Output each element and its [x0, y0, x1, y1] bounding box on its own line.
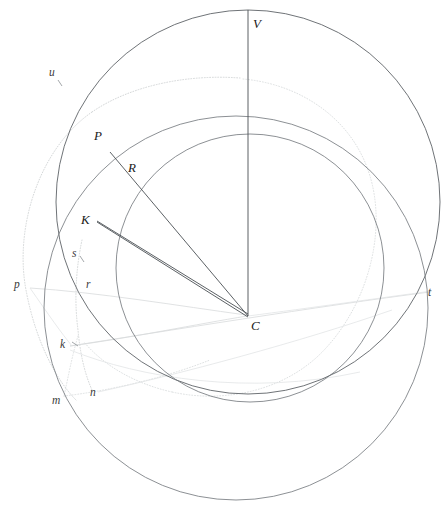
segment-P-C: [110, 152, 248, 316]
point-label-R: R: [127, 160, 136, 175]
point-label-p: p: [13, 278, 20, 291]
point-label-k: k: [60, 338, 66, 350]
point-label-group: V P R K C u s p r k m n t: [13, 16, 432, 406]
segment-K-C-lower: [97, 222, 248, 317]
faint-ellipse-inner-arc: [172, 79, 376, 396]
point-label-n: n: [90, 386, 96, 398]
circle-group: [44, 10, 440, 500]
secondary-circle: [116, 134, 384, 402]
tick-u: [58, 80, 62, 86]
ghost-curve-p-to-c: [30, 288, 246, 315]
point-label-C: C: [251, 318, 260, 333]
point-label-m: m: [52, 394, 60, 406]
faint-construction-curves: [23, 77, 376, 400]
faint-dotted-baseline-n: [64, 360, 210, 396]
point-label-u: u: [49, 66, 55, 78]
ghost-curve-k-to-t: [70, 292, 430, 346]
point-label-t: t: [428, 286, 432, 298]
faint-ellipse-left-upper: [92, 77, 240, 112]
geometry-figure: V P R K C u s p r k m n t: [0, 0, 444, 509]
point-label-P: P: [93, 128, 102, 143]
geometry-canvas: V P R K C u s p r k m n t: [0, 0, 444, 509]
ghost-curve-p-descend: [30, 288, 72, 346]
point-label-r: r: [86, 278, 91, 290]
faint-ellipse-left-arc: [23, 112, 92, 400]
ghost-curve-lower-sweep: [70, 350, 360, 383]
ghost-curve-n-sweep: [98, 310, 392, 392]
ghost-curve-c-to-t: [248, 291, 432, 316]
point-label-V: V: [253, 16, 263, 31]
lower-circle: [44, 116, 428, 500]
radius-line-group: [97, 10, 248, 317]
point-label-s: s: [72, 247, 77, 259]
faint-vertical-dotted-arc: [76, 240, 92, 390]
point-label-K: K: [80, 212, 91, 227]
tick-s: [80, 256, 84, 262]
